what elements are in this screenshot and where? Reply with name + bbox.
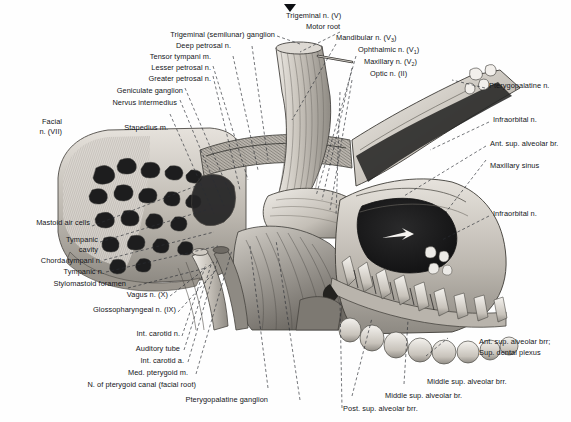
label-auditory-tube: Auditory tube <box>100 345 180 354</box>
label-greater-petrosal-n: Greater petrosal n. <box>58 75 211 84</box>
label-ant-sup-alveolar-brr-line2: Sup. dental plexus <box>479 349 541 358</box>
label-infraorbital-n-lower: Infraorbital n. <box>493 210 537 219</box>
label-tympanic-cavity-line2: cavity <box>28 246 98 255</box>
label-infraorbital-n-upper: Infraorbital n. <box>493 116 537 125</box>
label-chorda-tympani-n: Chorda tympani n. <box>18 257 102 266</box>
label-geniculate-ganglion: Geniculate ganglion <box>40 87 183 96</box>
label-int-carotid-n: Int. carotid n. <box>98 330 180 339</box>
label-maxillary-n: Maxillary n. (V2) <box>364 58 417 68</box>
label-tympanic-n: Tympanic n. <box>30 268 104 277</box>
label-int-carotid-a: Int. carotid a. <box>108 357 184 366</box>
pterygoid-region <box>296 297 342 330</box>
label-optic-n: Optic n. (II) <box>370 70 407 79</box>
label-med-pterygoid-m: Med. pterygoid m. <box>98 369 188 378</box>
label-post-sup-alveolar-brr: Post. sup. alveolar brr. <box>343 405 418 414</box>
label-tympanic-cavity-line1: Tympanic <box>28 236 98 245</box>
label-n-pterygoid-canal: N. of pterygoid canal (facial root) <box>40 381 196 390</box>
label-ant-sup-alveolar-brr-line1: Ant. sup. alveolar brr; <box>479 338 550 347</box>
label-nervus-intermedius: Nervus intermedius <box>34 99 177 108</box>
label-middle-sup-alveolar-brr: Middle sup. alveolar brr. <box>427 378 507 387</box>
label-ophthalmic-n: Ophthalmic n. (V1) <box>358 46 419 56</box>
label-trigeminal-n: Trigeminal n. (V) <box>286 12 341 21</box>
label-facial-n-line1: Facial <box>8 118 62 127</box>
label-ant-sup-alveolar-br: Ant. sup. alveolar br. <box>490 140 558 149</box>
label-vagus-n: Vagus n. (X) <box>90 291 168 300</box>
anatomy-figure: Trigeminal (semilunar) ganglion Deep pet… <box>0 0 571 422</box>
label-mandibular-n: Mandibular n. (V3) <box>336 34 397 44</box>
label-glossopharyngeal-n: Glossopharyngeal n. (IX) <box>62 306 176 315</box>
label-maxillary-sinus: Maxillary sinus <box>490 162 539 171</box>
label-middle-sup-alveolar-br: Middle sup. alveolar br. <box>385 392 462 401</box>
label-tensor-tympani-m: Tensor tympani m. <box>75 53 211 62</box>
label-pterygopalatine-ganglion: Pterygopalatine ganglion <box>150 396 268 405</box>
label-stapedius-m: Stapedius m. <box>58 124 168 133</box>
label-pterygopalatine-n: Pterygopalatine n. <box>489 82 549 91</box>
label-deep-petrosal-n: Deep petrosal n. <box>95 42 231 51</box>
label-stylomastoid-foramen: Stylomastoid foramen <box>26 280 126 289</box>
label-trigeminal-semilunar-ganglion: Trigeminal (semilunar) ganglion <box>95 31 275 40</box>
label-motor-root: Motor root <box>306 23 340 32</box>
label-lesser-petrosal-n: Lesser petrosal n. <box>63 64 211 73</box>
label-mastoid-air-cells: Mastoid air cells <box>8 219 90 228</box>
label-facial-n-line2: n. (VII) <box>8 128 62 137</box>
